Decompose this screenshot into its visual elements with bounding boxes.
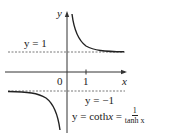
x-axis-label: x xyxy=(122,76,127,87)
curve-left-branch xyxy=(8,92,60,131)
fraction-numerator: 1 xyxy=(132,107,138,116)
tick-label-1: 1 xyxy=(83,76,89,87)
formula-lhs: y = coth xyxy=(72,111,108,122)
fraction-denominator: tanh x xyxy=(125,116,145,125)
y-axis-arrow xyxy=(65,11,69,17)
y-axis-label: y xyxy=(57,8,62,19)
formula-eq: = xyxy=(113,111,125,122)
origin-label: 0 xyxy=(57,76,63,87)
formula-fraction: 1 tanh x xyxy=(125,107,145,125)
asymptote-label-y-1: y = 1 xyxy=(24,38,47,49)
asymptote-label-y-neg1: y = −1 xyxy=(85,95,114,106)
x-axis-arrow xyxy=(121,70,127,74)
function-formula: y = coth x = 1 tanh x xyxy=(72,107,145,125)
curve-right-branch xyxy=(72,14,124,52)
